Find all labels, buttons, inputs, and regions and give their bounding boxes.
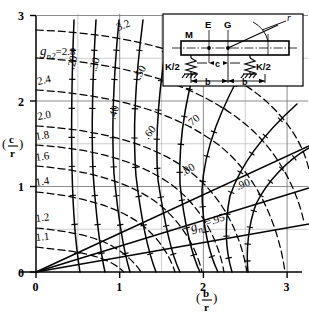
x-tick-label-1: 1: [116, 280, 122, 294]
inset-label-b-right: b: [242, 77, 248, 87]
x-tick-label-3: 3: [284, 280, 290, 294]
inset-label-e: E: [205, 19, 211, 30]
curve-label-2.0: 2.0: [36, 108, 52, 122]
svg-text:): ): [19, 136, 23, 151]
inset-label-g: G: [224, 19, 231, 30]
curve-tick: [113, 196, 119, 197]
curve-tick: [199, 181, 205, 182]
svg-text:(: (: [2, 136, 6, 151]
curve-tick: [224, 214, 230, 215]
y-tick-label-3: 3: [18, 9, 24, 23]
curve-label-1.6: 1.6: [35, 149, 51, 163]
y-tick-label-2: 2: [18, 95, 24, 109]
y-tick-label-1: 1: [18, 180, 24, 194]
curve-tick: [74, 253, 80, 254]
nomograph-figure: 0123 0123 1.11.21.61.41.82.02.43.2 .20.3…: [0, 0, 309, 320]
curve-label-1.2: 1.2: [35, 210, 50, 224]
y-axis-label-denominator: r: [10, 147, 15, 159]
svg-text:(: (: [196, 290, 200, 305]
x-axis-label-numerator: b: [203, 287, 209, 299]
gn2-anchor-value: 2.8: [62, 45, 76, 57]
y-tick-label-0: 0: [18, 266, 24, 280]
curve-tick: [136, 50, 142, 51]
curve-label-1.4: 1.4: [35, 174, 51, 188]
curve-label-1.8: 1.8: [34, 128, 50, 142]
inset-label-k-right: K/2: [256, 61, 271, 72]
x-tick-label-0: 0: [33, 280, 39, 294]
curve-tick: [92, 195, 98, 196]
curve-tick: [95, 224, 101, 225]
inset-point-e: [207, 46, 211, 50]
inset-label-mass: M: [185, 29, 193, 40]
inset-label-c: c: [215, 59, 220, 69]
svg-text:): ): [213, 290, 217, 305]
x-axis-label-denominator: r: [204, 301, 209, 313]
inset-label-b-left: b: [205, 77, 211, 87]
y-axis-label-numerator: c: [9, 133, 14, 145]
inset-label-k-left: K/2: [165, 61, 180, 72]
inset-diagram: M E G r c b b K/2 K/2: [163, 12, 303, 87]
figure-root: 0123 0123 1.11.21.61.41.82.02.43.2 .20.3…: [0, 0, 309, 320]
curve-label-1.1: 1.1: [35, 230, 50, 243]
inset-label-r: r: [287, 12, 291, 23]
